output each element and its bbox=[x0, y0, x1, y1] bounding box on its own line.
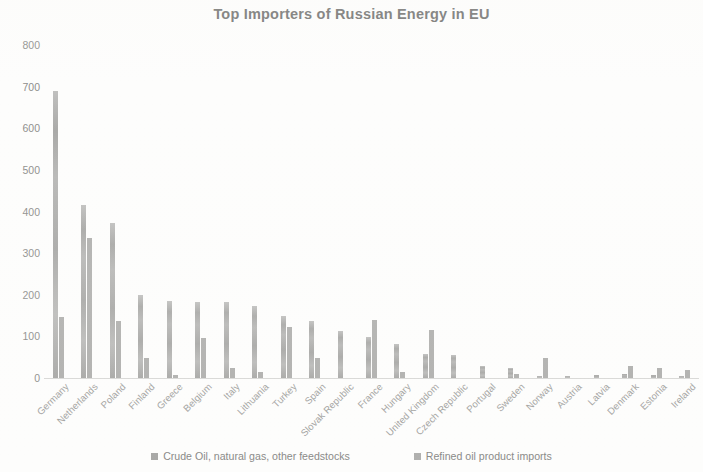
bar-refined bbox=[230, 368, 235, 378]
x-tick-label: Italy bbox=[221, 381, 242, 402]
x-tick-label: Slovak Republic bbox=[298, 381, 355, 438]
bar-crude bbox=[338, 331, 343, 378]
bar-refined bbox=[543, 358, 548, 378]
bar-crude bbox=[281, 316, 286, 378]
x-tick-label: Poland bbox=[99, 381, 128, 410]
x-tick-label: Belgium bbox=[181, 381, 214, 414]
y-tick-label: 100 bbox=[4, 330, 40, 342]
y-tick-label: 400 bbox=[4, 206, 40, 218]
bar-refined bbox=[201, 338, 206, 378]
bar-refined bbox=[144, 358, 149, 378]
bar-group bbox=[414, 45, 442, 378]
bar-refined bbox=[685, 370, 690, 378]
bar-group bbox=[500, 45, 528, 378]
bar-group bbox=[443, 45, 471, 378]
bar-crude bbox=[480, 366, 485, 378]
bar-crude bbox=[252, 306, 257, 378]
bar-crude bbox=[508, 368, 513, 378]
bar-group bbox=[329, 45, 357, 378]
x-axis-labels: GermanyNetherlandsPolandFinlandGreeceBel… bbox=[44, 379, 699, 445]
y-tick-label: 300 bbox=[4, 247, 40, 259]
y-tick-label: 200 bbox=[4, 289, 40, 301]
bar-group bbox=[186, 45, 214, 378]
bar-group bbox=[357, 45, 385, 378]
bar-group bbox=[158, 45, 186, 378]
bar-crude bbox=[195, 302, 200, 378]
x-tick-label: Norway bbox=[524, 381, 555, 412]
y-axis: 0100200300400500600700800 bbox=[0, 45, 40, 378]
bar-group bbox=[642, 45, 670, 378]
x-tick-label: Turkey bbox=[270, 381, 299, 410]
bar-chart: Top Importers of Russian Energy in EU 01… bbox=[0, 0, 703, 472]
bar-group bbox=[272, 45, 300, 378]
y-tick-label: 500 bbox=[4, 164, 40, 176]
bar-crude bbox=[309, 321, 314, 378]
bar-group bbox=[471, 45, 499, 378]
bar-group bbox=[300, 45, 328, 378]
legend-swatch-icon bbox=[151, 453, 158, 460]
bar-group bbox=[215, 45, 243, 378]
bar-group bbox=[44, 45, 72, 378]
y-tick-label: 0 bbox=[4, 372, 40, 384]
bar-group bbox=[557, 45, 585, 378]
bar-crude bbox=[167, 301, 172, 378]
bar-group bbox=[72, 45, 100, 378]
bar-refined bbox=[372, 320, 377, 378]
bar-crude bbox=[423, 354, 428, 378]
chart-legend: Crude Oil, natural gas, other feedstocks… bbox=[0, 450, 703, 462]
bar-refined bbox=[59, 317, 64, 378]
legend-item[interactable]: Crude Oil, natural gas, other feedstocks bbox=[151, 450, 350, 462]
legend-item[interactable]: Refined oil product imports bbox=[414, 450, 552, 462]
bar-group bbox=[671, 45, 699, 378]
bar-crude bbox=[366, 337, 371, 378]
bar-refined bbox=[287, 327, 292, 378]
chart-title: Top Importers of Russian Energy in EU bbox=[0, 6, 703, 22]
bar-group bbox=[528, 45, 556, 378]
bar-group bbox=[614, 45, 642, 378]
legend-swatch-icon bbox=[414, 453, 421, 460]
y-tick-label: 800 bbox=[4, 39, 40, 51]
legend-label: Refined oil product imports bbox=[426, 450, 552, 462]
bar-crude bbox=[224, 302, 229, 378]
bar-crude bbox=[394, 344, 399, 378]
x-tick-label: Ireland bbox=[669, 381, 698, 410]
y-tick-label: 600 bbox=[4, 122, 40, 134]
bar-crude bbox=[81, 205, 86, 378]
bar-refined bbox=[429, 330, 434, 378]
bar-group bbox=[386, 45, 414, 378]
x-tick-label: Finland bbox=[126, 381, 157, 412]
bar-refined bbox=[657, 368, 662, 378]
bar-crude bbox=[110, 223, 115, 378]
bar-refined bbox=[116, 321, 121, 378]
bar-crude bbox=[138, 295, 143, 378]
x-tick-label: Spain bbox=[302, 381, 327, 406]
x-tick-label: Latvia bbox=[586, 381, 612, 407]
plot-area bbox=[44, 45, 699, 378]
bar-group bbox=[243, 45, 271, 378]
legend-label: Crude Oil, natural gas, other feedstocks bbox=[163, 450, 350, 462]
bar-refined bbox=[87, 238, 92, 378]
x-tick-label: Estonia bbox=[638, 381, 669, 412]
y-tick-label: 700 bbox=[4, 81, 40, 93]
bar-crude bbox=[53, 91, 58, 378]
bar-crude bbox=[451, 355, 456, 378]
x-tick-label: Austria bbox=[554, 381, 583, 410]
bar-group bbox=[585, 45, 613, 378]
x-tick-label: Czech Republic bbox=[413, 381, 469, 437]
bar-refined bbox=[628, 366, 633, 378]
bar-group bbox=[129, 45, 157, 378]
bar-refined bbox=[315, 358, 320, 378]
bar-group bbox=[101, 45, 129, 378]
x-tick-label: Greece bbox=[154, 381, 184, 411]
x-tick-label: Portugal bbox=[465, 381, 499, 415]
x-tick-label: Sweden bbox=[494, 381, 527, 414]
